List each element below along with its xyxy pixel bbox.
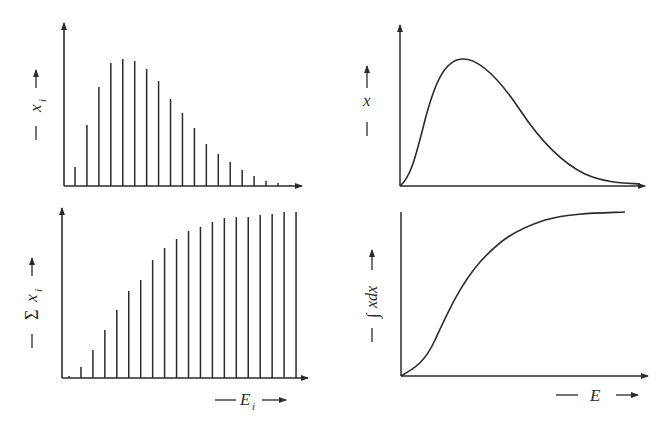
distribution-curve <box>400 59 640 186</box>
svg-text:E: E <box>589 386 601 405</box>
figure: x i Σ x i E i x <box>0 0 669 425</box>
bars <box>75 59 290 186</box>
panel-cumulative-continuous: ∫ xdx E <box>363 212 648 405</box>
y-axis-label: ∫ xdx <box>363 250 383 342</box>
cumulative-curve <box>401 212 625 376</box>
x-axis-label: E <box>556 386 638 405</box>
svg-text:i: i <box>252 400 255 412</box>
svg-text:Σ: Σ <box>22 310 42 320</box>
y-axis-label: x <box>362 66 371 136</box>
svg-text:i: i <box>36 99 48 102</box>
y-axis-label: Σ x i <box>22 258 44 348</box>
panel-continuous-distribution: x <box>362 25 645 186</box>
bars <box>69 212 296 378</box>
svg-text:xdx: xdx <box>363 286 380 309</box>
x-axis-label: E i <box>215 390 286 412</box>
panel-discrete-distribution: x i <box>26 23 302 186</box>
panel-cumulative-discrete: Σ x i E i <box>22 208 308 412</box>
svg-text:∫: ∫ <box>363 312 383 319</box>
y-axis-label: x i <box>26 70 48 140</box>
ylabel-text: x <box>26 104 45 113</box>
svg-text:E: E <box>239 390 251 409</box>
svg-text:i: i <box>32 289 44 292</box>
svg-text:x: x <box>22 294 41 303</box>
svg-text:x: x <box>362 91 371 110</box>
